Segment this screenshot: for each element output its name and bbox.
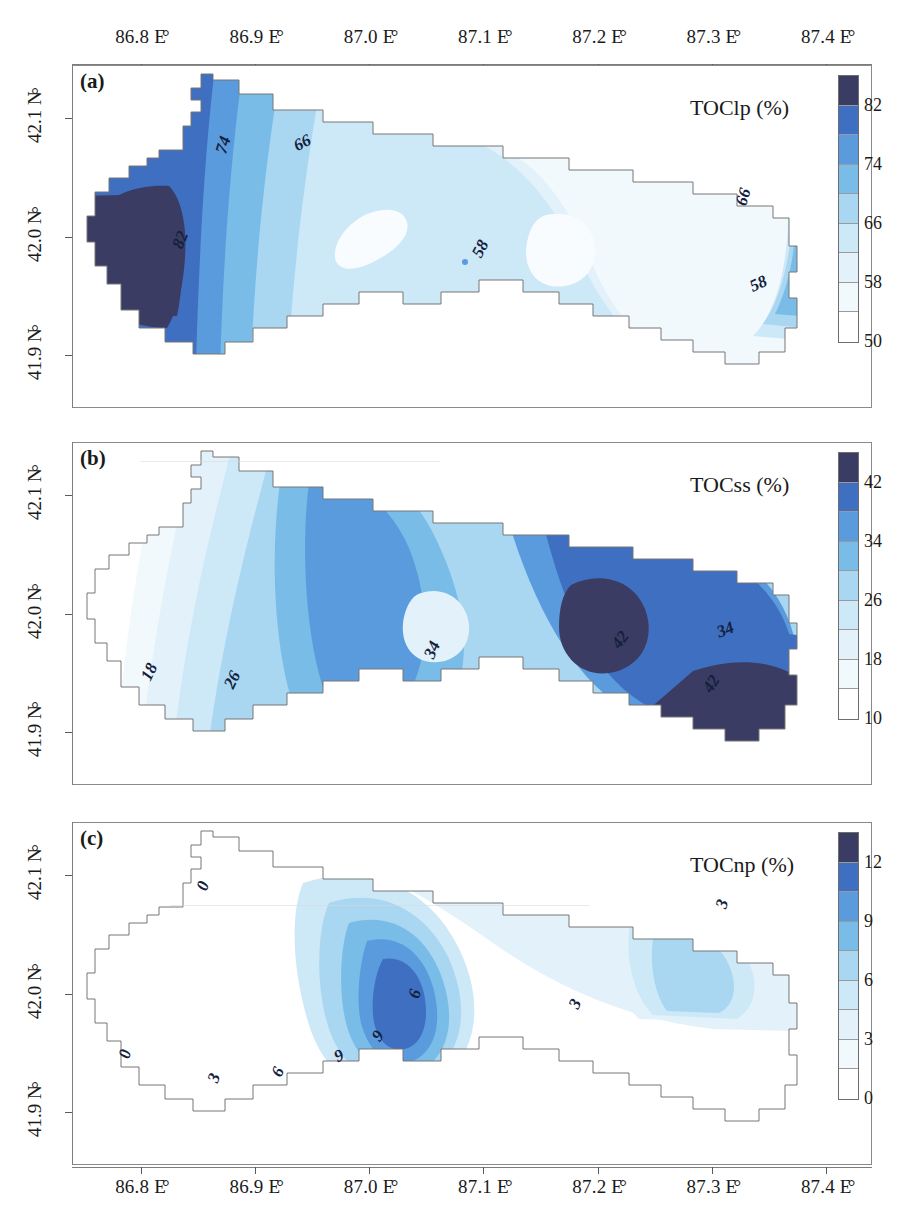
x-axis-tick bbox=[712, 1167, 713, 1174]
x-axis-tick-label: 87.4 E° bbox=[801, 1176, 852, 1198]
colorbar-band bbox=[839, 76, 858, 106]
colorbar-tick-label: 0 bbox=[864, 1088, 873, 1109]
x-axis-tick-label: 87.3 E° bbox=[687, 26, 738, 48]
x-axis-tick bbox=[369, 1167, 370, 1174]
x-axis-tick-label: 87.0 E° bbox=[344, 26, 395, 48]
colorbar-band bbox=[839, 689, 858, 719]
x-axis-tick bbox=[598, 1167, 599, 1174]
colorbar-tick-label: 26 bbox=[864, 589, 882, 610]
figure-root: 86.8 E°86.9 E°87.0 E°87.1 E°87.2 E°87.3 … bbox=[0, 0, 914, 1220]
colorbar-band bbox=[839, 1040, 858, 1070]
x-axis-labels-bottom: 86.8 E°86.9 E°87.0 E°87.1 E°87.2 E°87.3 … bbox=[0, 1176, 914, 1202]
y-axis-tick bbox=[65, 237, 72, 238]
colorbar-band bbox=[839, 1069, 858, 1099]
colorbar-band bbox=[839, 165, 858, 195]
scan-artifact bbox=[170, 905, 590, 906]
colorbar-tick-label: 42 bbox=[864, 471, 882, 492]
y-axis-tick bbox=[65, 614, 72, 615]
x-axis-tick-label: 87.2 E° bbox=[572, 1176, 623, 1198]
y-axis-tick-label: 42.1 N° bbox=[24, 839, 46, 909]
colorbar-band bbox=[839, 224, 858, 254]
y-axis-tick-label: 41.9 N° bbox=[24, 696, 46, 766]
panel-c-tag: (c) bbox=[80, 826, 103, 851]
x-axis-tick bbox=[826, 1167, 827, 1174]
y-axis-tick bbox=[65, 1112, 72, 1113]
colorbar-band bbox=[839, 863, 858, 893]
colorbar-tick-label: 74 bbox=[864, 153, 882, 174]
x-axis-tick-label: 87.3 E° bbox=[687, 1176, 738, 1198]
colorbar-tick-label: 9 bbox=[864, 910, 873, 931]
x-axis-tick-label: 87.4 E° bbox=[801, 26, 852, 48]
x-axis-tick-label: 86.8 E° bbox=[115, 26, 166, 48]
colorbar-band bbox=[839, 571, 858, 601]
panel-a-tag: (a) bbox=[80, 69, 105, 94]
colorbar-band bbox=[839, 283, 858, 313]
colorbar-band bbox=[839, 312, 858, 342]
colorbar-band bbox=[839, 253, 858, 283]
colorbar-tick-label: 50 bbox=[864, 331, 882, 352]
x-axis-tick-label: 86.9 E° bbox=[229, 1176, 280, 1198]
x-axis-tick-label: 86.9 E° bbox=[229, 26, 280, 48]
x-axis-tick bbox=[141, 1167, 142, 1174]
colorbar-tick-label: 6 bbox=[864, 969, 873, 990]
colorbar-band bbox=[839, 660, 858, 690]
colorbar-band bbox=[839, 601, 858, 631]
colorbar-band bbox=[839, 892, 858, 922]
x-axis-tick-label: 87.1 E° bbox=[458, 26, 509, 48]
colorbar-ticks: 129630 bbox=[864, 832, 904, 1098]
y-axis-tick-label: 41.9 N° bbox=[24, 319, 46, 389]
y-axis-tick bbox=[65, 495, 72, 496]
colorbar-band bbox=[839, 833, 858, 863]
x-axis-bottom bbox=[72, 1167, 872, 1168]
colorbar bbox=[838, 452, 859, 720]
colorbar-tick-label: 12 bbox=[864, 851, 882, 872]
colorbar-tick-label: 10 bbox=[864, 708, 882, 729]
y-axis-tick bbox=[65, 875, 72, 876]
y-axis-tick-label: 42.0 N° bbox=[24, 201, 46, 271]
colorbar-band bbox=[839, 630, 858, 660]
colorbar-band bbox=[839, 922, 858, 952]
x-axis-tick bbox=[255, 1167, 256, 1174]
y-axis-tick-label: 41.9 N° bbox=[24, 1076, 46, 1146]
colorbar-band bbox=[839, 542, 858, 572]
colorbar bbox=[838, 832, 859, 1100]
colorbar-tick-label: 82 bbox=[864, 94, 882, 115]
colorbar-band bbox=[839, 981, 858, 1011]
colorbar-title: TOClp (%) bbox=[690, 95, 789, 121]
y-axis-tick bbox=[65, 732, 72, 733]
scan-artifact bbox=[140, 461, 440, 462]
colorbar-band bbox=[839, 135, 858, 165]
y-axis bbox=[72, 65, 73, 408]
y-axis-tick bbox=[65, 994, 72, 995]
colorbar-tick-label: 18 bbox=[864, 648, 882, 669]
colorbar-band bbox=[839, 453, 858, 483]
y-axis bbox=[72, 822, 73, 1165]
x-axis-tick-label: 86.8 E° bbox=[115, 1176, 166, 1198]
panel-b-tag: (b) bbox=[80, 446, 106, 471]
colorbar-title: TOCnp (%) bbox=[690, 852, 794, 878]
x-axis-labels-top: 86.8 E°86.9 E°87.0 E°87.1 E°87.2 E°87.3 … bbox=[0, 26, 914, 52]
colorbar-tick-label: 34 bbox=[864, 530, 882, 551]
y-axis-tick-label: 42.1 N° bbox=[24, 82, 46, 152]
colorbar-ticks: 8274665850 bbox=[864, 75, 904, 341]
colorbar-title: TOCss (%) bbox=[690, 472, 789, 498]
x-axis-tick-label: 87.0 E° bbox=[344, 1176, 395, 1198]
x-axis-tick bbox=[483, 1167, 484, 1174]
y-axis-tick-label: 42.0 N° bbox=[24, 958, 46, 1028]
colorbar-band bbox=[839, 1010, 858, 1040]
y-axis-tick-label: 42.0 N° bbox=[24, 578, 46, 648]
y-axis-tick-label: 42.1 N° bbox=[24, 459, 46, 529]
colorbar bbox=[838, 75, 859, 343]
y-axis-tick bbox=[65, 355, 72, 356]
colorbar-band bbox=[839, 483, 858, 513]
colorbar-tick-label: 3 bbox=[864, 1028, 873, 1049]
colorbar-tick-label: 66 bbox=[864, 212, 882, 233]
y-axis bbox=[72, 442, 73, 785]
colorbar-band bbox=[839, 106, 858, 136]
colorbar-tick-label: 58 bbox=[864, 271, 882, 292]
colorbar-band bbox=[839, 194, 858, 224]
y-axis-tick bbox=[65, 118, 72, 119]
colorbar-band bbox=[839, 512, 858, 542]
x-axis-tick-label: 87.2 E° bbox=[572, 26, 623, 48]
x-axis-tick-label: 87.1 E° bbox=[458, 1176, 509, 1198]
